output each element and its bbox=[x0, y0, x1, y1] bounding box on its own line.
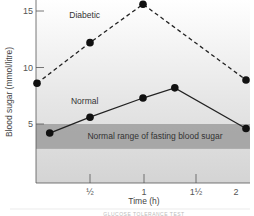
x-tick-label: 1½ bbox=[190, 187, 203, 197]
chart-caption: GLUCOSE TOLERANCE TEST bbox=[103, 211, 184, 216]
diabetic-series-label: Diabetic bbox=[69, 10, 100, 20]
diabetic-data-point bbox=[33, 80, 41, 88]
normal-data-point bbox=[139, 94, 147, 102]
normal-data-point bbox=[86, 113, 94, 121]
diabetic-data-point bbox=[86, 39, 94, 47]
normal-series-label: Normal bbox=[71, 96, 99, 106]
glucose-tolerance-chart: Normal range of fasting blood sugar 5101… bbox=[0, 0, 254, 216]
x-axis-title: Time (h) bbox=[128, 196, 159, 206]
normal-data-point bbox=[171, 84, 179, 92]
y-tick-label: 15 bbox=[23, 6, 33, 16]
y-tick-label: 5 bbox=[28, 119, 33, 129]
band-label: Normal range of fasting blood sugar bbox=[87, 131, 222, 141]
diabetic-data-point bbox=[139, 0, 147, 8]
y-axis-title: Blood sugar (mmol/litre) bbox=[4, 47, 14, 137]
normal-data-point bbox=[46, 129, 54, 137]
x-tick-label: ½ bbox=[86, 187, 94, 197]
normal-data-point bbox=[242, 125, 250, 133]
plot-background bbox=[36, 0, 250, 183]
x-tick-label: 2 bbox=[233, 187, 238, 197]
y-tick-label: 10 bbox=[23, 63, 33, 73]
diabetic-data-point bbox=[242, 76, 250, 84]
